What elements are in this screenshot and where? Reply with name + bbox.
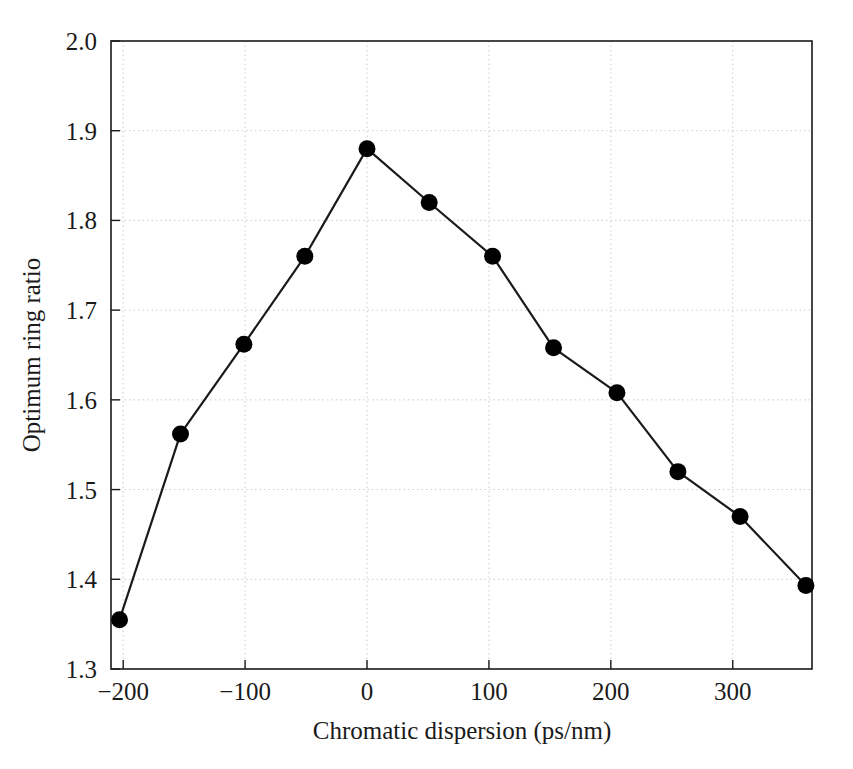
data-point-marker (669, 463, 686, 480)
y-tick-labels: 1.31.41.51.61.71.81.92.0 (66, 28, 98, 683)
y-tick-label: 2.0 (66, 28, 97, 55)
x-tick-labels: −200−1000100200300 (97, 678, 751, 705)
line-chart: −200−1000100200300 1.31.41.51.61.71.81.9… (0, 0, 853, 769)
data-point-marker (111, 611, 128, 628)
x-axis-title: Chromatic dispersion (ps/nm) (313, 717, 612, 745)
y-tick-label: 1.4 (66, 566, 98, 593)
y-tick-label: 1.5 (66, 477, 97, 504)
data-point-marker (296, 248, 313, 265)
y-tick-label: 1.9 (66, 118, 97, 145)
y-axis-title: Optimum ring ratio (18, 258, 45, 452)
x-tick-label: 100 (470, 678, 508, 705)
data-point-marker (235, 336, 252, 353)
chart-figure: −200−1000100200300 1.31.41.51.61.71.81.9… (0, 0, 853, 769)
y-tick-label: 1.7 (66, 297, 97, 324)
axis-ticks (111, 41, 733, 669)
x-tick-label: −100 (219, 678, 271, 705)
x-tick-label: −200 (97, 678, 149, 705)
grid-lines (111, 41, 812, 669)
data-point-marker (545, 339, 562, 356)
plot-border (111, 41, 812, 669)
data-point-marker (608, 384, 625, 401)
data-point-marker (172, 425, 189, 442)
data-line (120, 149, 806, 620)
y-tick-label: 1.8 (66, 207, 97, 234)
series-line (120, 149, 806, 620)
data-point-marker (421, 194, 438, 211)
y-tick-label: 1.6 (66, 387, 97, 414)
x-tick-label: 300 (714, 678, 752, 705)
data-point-marker (484, 248, 501, 265)
data-point-marker (797, 577, 814, 594)
data-point-marker (359, 140, 376, 157)
x-tick-label: 200 (592, 678, 630, 705)
x-tick-label: 0 (361, 678, 374, 705)
y-tick-label: 1.3 (66, 656, 97, 683)
plot-frame (111, 41, 812, 669)
data-point-marker (732, 508, 749, 525)
